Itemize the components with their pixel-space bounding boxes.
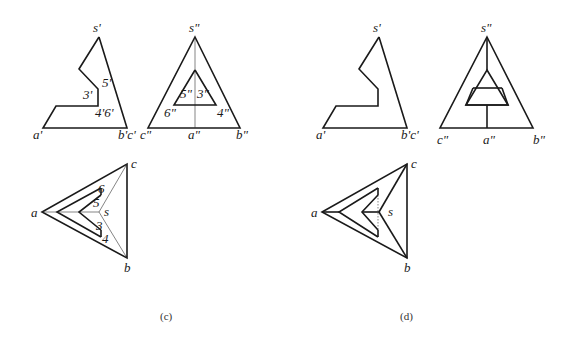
label-bc-prime: b'c' xyxy=(118,127,136,142)
label-b: b xyxy=(404,260,411,275)
label-s-dprime: s" xyxy=(189,20,200,35)
caption-d: (d) xyxy=(400,310,413,323)
figure-c: s' a' b'c' 5' 3' 4'6' s" c" a" b" 5" 3" … xyxy=(31,20,249,323)
label-a-prime: a' xyxy=(33,127,43,142)
label-s: s xyxy=(104,204,109,219)
label-b-dprime: b" xyxy=(533,132,546,147)
label-s: s xyxy=(388,204,393,219)
side-view-c: s" c" a" b" 5" 3" 6" 4" xyxy=(140,20,249,142)
label-a: a xyxy=(31,205,38,220)
label-46-prime: 4'6' xyxy=(95,105,114,120)
label-6-dprime: 6" xyxy=(164,105,177,120)
label-c: c xyxy=(411,156,417,171)
side-view-inner-trapezoid-sides xyxy=(466,88,508,105)
figure-d: s' a' b'c' s" c" a" b" xyxy=(311,20,546,323)
label-bc-prime: b'c' xyxy=(401,127,419,142)
top-view-d: c a b s xyxy=(311,156,417,275)
label-b: b xyxy=(124,260,131,275)
label-s-prime: s' xyxy=(373,20,381,35)
front-view-c: s' a' b'c' 5' 3' 4'6' xyxy=(33,20,136,142)
label-4: 4 xyxy=(102,231,109,246)
label-3-prime: 3' xyxy=(82,87,93,102)
label-c-dprime: c" xyxy=(140,127,152,142)
label-5: 5 xyxy=(93,195,100,210)
label-6: 6 xyxy=(98,181,105,196)
top-view-outer-triangle xyxy=(322,164,407,258)
front-view-outline xyxy=(43,37,127,128)
label-a: a xyxy=(311,205,318,220)
label-5-dprime: 5" xyxy=(180,86,193,101)
label-a-dprime: a" xyxy=(483,132,496,147)
diagram-canvas: s' a' b'c' 5' 3' 4'6' s" c" a" b" 5" 3" … xyxy=(0,0,566,349)
side-view-d: s" c" a" b" xyxy=(437,20,546,147)
front-view-outline xyxy=(323,37,407,128)
label-5-prime: 5' xyxy=(102,75,112,90)
front-view-d: s' a' b'c' xyxy=(316,20,419,142)
label-a-prime: a' xyxy=(316,127,326,142)
label-c: c xyxy=(131,156,137,171)
label-s-prime: s' xyxy=(93,20,101,35)
label-3-dprime: 3" xyxy=(196,86,210,101)
top-view-outer-triangle xyxy=(42,164,127,258)
label-c-dprime: c" xyxy=(437,132,449,147)
caption-c: (c) xyxy=(160,310,173,323)
label-a-dprime: a" xyxy=(188,127,201,142)
top-view-c: c a b s 6 5 3 4 xyxy=(31,156,137,275)
label-s-dprime: s" xyxy=(481,20,492,35)
label-b-dprime: b" xyxy=(236,127,249,142)
label-4-dprime: 4" xyxy=(217,105,230,120)
